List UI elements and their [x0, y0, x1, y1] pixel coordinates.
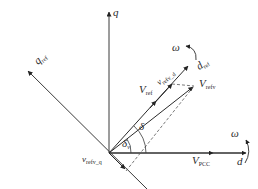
delta-v-label: δv — [122, 138, 130, 150]
omega-top-rotation-icon — [186, 46, 196, 60]
v-refv-label: Vrefv — [199, 78, 215, 90]
omega-right-label: ω — [231, 128, 239, 139]
phasor-diagram — [0, 0, 258, 189]
v-ref-vector — [109, 101, 156, 153]
v-pcc-label: VPCC — [192, 155, 210, 167]
v-refv-q-vector — [109, 153, 125, 169]
omega-top-label: ω — [172, 42, 180, 53]
v-ref-label: Vref — [139, 84, 152, 96]
dashed-projection-d — [172, 84, 194, 86]
d-axis-label: d — [237, 156, 243, 167]
omega-right-rotation-icon — [245, 140, 249, 163]
v-refv-q-label: vrefv_q — [82, 155, 102, 165]
q-axis-label: q — [113, 7, 119, 18]
delta-label: δ — [139, 121, 144, 132]
